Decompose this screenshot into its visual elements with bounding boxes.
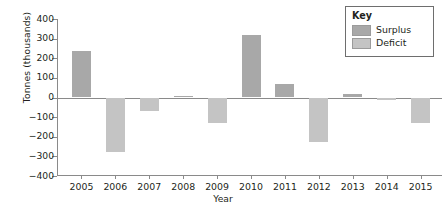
y-tick-label: −300: [29, 150, 54, 161]
y-tick-label: 0: [48, 91, 54, 102]
x-tick-mark: [353, 175, 354, 179]
legend-item-surplus: Surplus: [352, 25, 428, 36]
x-tick-label: 2015: [401, 181, 441, 192]
legend-title: Key: [352, 11, 428, 22]
bar-2014: [377, 98, 396, 100]
bar-2007: [140, 98, 159, 112]
legend-swatch-surplus: [352, 25, 371, 36]
bar-2015: [411, 98, 430, 124]
x-tick-mark: [251, 175, 252, 179]
y-tick-label: −100: [29, 111, 54, 122]
x-tick-mark: [387, 175, 388, 179]
bar-2010: [242, 35, 261, 98]
bar-2006: [106, 98, 125, 153]
y-tick-label: −400: [29, 170, 54, 181]
legend: Key Surplus Deficit: [345, 6, 434, 57]
y-tick-label: 100: [36, 71, 54, 82]
bar-chart: Tonnes (thousands) 4003002001000−100−200…: [0, 0, 446, 209]
x-tick-mark: [217, 175, 218, 179]
bar-2005: [72, 51, 91, 97]
bar-2008: [174, 96, 193, 98]
bar-2009: [208, 98, 227, 124]
x-tick-mark: [149, 175, 150, 179]
legend-label-deficit: Deficit: [376, 38, 406, 47]
bar-2013: [343, 94, 362, 98]
legend-item-deficit: Deficit: [352, 38, 428, 49]
x-tick-mark: [183, 175, 184, 179]
y-tick-label: −200: [29, 130, 54, 141]
x-tick-mark: [421, 175, 422, 179]
legend-label-surplus: Surplus: [376, 25, 411, 34]
y-tick-label: 200: [36, 52, 54, 63]
x-tick-mark: [319, 175, 320, 179]
x-tick-mark: [81, 175, 82, 179]
y-axis-title: Tonnes (thousands): [21, 0, 32, 128]
x-tick-mark: [115, 175, 116, 179]
bar-2012: [309, 98, 328, 142]
y-tick-label: 300: [36, 32, 54, 43]
x-axis-title: Year: [0, 193, 446, 204]
legend-swatch-deficit: [352, 38, 371, 49]
y-tick-label: 400: [36, 13, 54, 24]
x-tick-mark: [285, 175, 286, 179]
bar-2011: [275, 84, 294, 98]
